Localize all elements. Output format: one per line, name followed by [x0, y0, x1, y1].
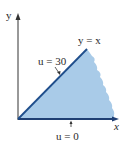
u30-arrow-icon — [57, 71, 61, 75]
region-diagram: y x y = x u = 30 u = 0 — [0, 0, 129, 150]
y-axis-arrow-icon — [16, 13, 21, 20]
u30-label: u = 30 — [38, 55, 67, 67]
u0-arrow-icon — [70, 121, 73, 125]
u0-label: u = 0 — [56, 130, 79, 142]
x-axis-label: x — [113, 120, 119, 132]
diagonal-label: y = x — [78, 34, 101, 46]
y-axis-label: y — [6, 9, 12, 21]
